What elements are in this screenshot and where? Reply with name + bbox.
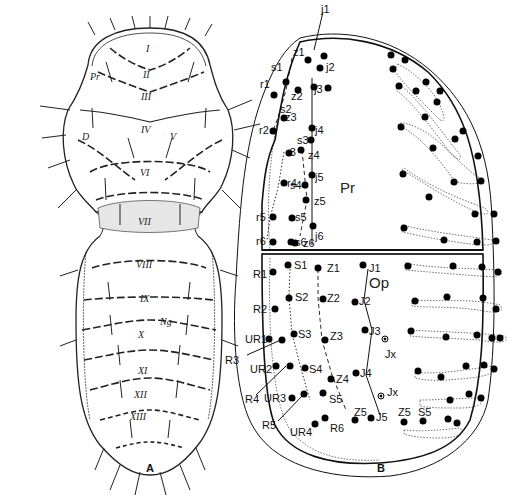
- seta-label-Z3: Z3: [330, 330, 343, 342]
- seta-label-r2: r2: [259, 124, 269, 136]
- seta-label-j5: j5: [314, 171, 324, 183]
- seta-label-R5: R5: [262, 419, 276, 431]
- panel-label-a: A: [146, 462, 154, 474]
- seta-label-z1: z1: [293, 46, 305, 58]
- seta-label-z4: z4: [308, 149, 320, 161]
- seta-label-Z5: Z5: [354, 406, 367, 418]
- seta-label-jx-2: Jx: [387, 386, 399, 398]
- seta-label-Z4: Z4: [336, 373, 349, 385]
- seta-label-r4: r4: [287, 177, 297, 189]
- segment-label-xi: XI: [137, 365, 148, 376]
- segment-label-xii: XII: [133, 389, 147, 400]
- seta-label-s5: s5: [295, 211, 307, 223]
- seta-label-jx-1: Jx: [385, 348, 397, 360]
- segment-label-ii: II: [142, 69, 150, 80]
- seta-label-S4: S4: [309, 363, 322, 375]
- figure-stage: I II III IV V VI VII VIII IX X XI XII XI…: [0, 0, 529, 497]
- seta-label-s6: s6: [295, 236, 307, 248]
- seta-label-j1: j1: [320, 3, 330, 15]
- panel-a-drawing: [40, 16, 260, 495]
- seta-label-r3: r3: [286, 146, 296, 158]
- seta-label-r6: r6: [256, 235, 266, 247]
- seta-label-s1: s1: [271, 61, 283, 73]
- seta-label-Z2: Z2: [327, 292, 340, 304]
- segment-label-viii: VIII: [136, 259, 153, 270]
- seta-label-R2: R2: [253, 303, 267, 315]
- seta-label-UR3: UR3: [264, 392, 286, 404]
- region-label-pr-b: Pr: [340, 179, 355, 196]
- seta-label-R1: R1: [253, 268, 267, 280]
- segment-label-iii: III: [140, 91, 152, 102]
- seta-label-S3: S3: [298, 328, 311, 340]
- region-label-op: Op: [369, 274, 389, 291]
- seta-label-z2: z2: [291, 90, 303, 102]
- seta-label-J4: J4: [360, 367, 372, 379]
- seta-label-UR1: UR1: [245, 333, 267, 345]
- seta-label-right-s5: S5: [418, 406, 431, 418]
- seta-label-J5: J5: [376, 411, 388, 423]
- seta-label-z5: z5: [314, 195, 326, 207]
- seta-label-R3: R3: [225, 354, 239, 366]
- segment-label-vi: VI: [140, 167, 150, 178]
- seta-label-J2: J2: [359, 295, 371, 307]
- seta-label-s2: s2: [280, 103, 292, 115]
- panel-label-b: B: [377, 462, 385, 474]
- seta-label-R4: R4: [245, 393, 259, 405]
- seta-label-Z1: Z1: [327, 262, 340, 274]
- seta-label-s3: s3: [297, 134, 309, 146]
- segment-label-v: V: [170, 131, 178, 142]
- seta-label-J3: J3: [369, 325, 381, 337]
- seta-label-UR4: UR4: [290, 426, 312, 438]
- seta-label-J1: J1: [369, 262, 381, 274]
- seta-label-right-z5: Z5: [398, 406, 411, 418]
- region-label-pr: Pr: [89, 71, 100, 82]
- region-label-d: D: [81, 131, 90, 142]
- region-label-ng: Ng: [159, 316, 172, 327]
- seta-label-j4: j4: [314, 124, 324, 136]
- segment-label-i: I: [145, 43, 150, 54]
- seta-label-S2: S2: [295, 291, 308, 303]
- seta-label-r1: r1: [260, 78, 270, 90]
- seta-label-UR2: UR2: [250, 363, 272, 375]
- segment-label-xiii: XIII: [129, 411, 147, 422]
- seta-label-j3: j3: [313, 83, 323, 95]
- segment-label-x: X: [137, 329, 145, 340]
- figure-svg: I II III IV V VI VII VIII IX X XI XII XI…: [0, 0, 529, 497]
- seta-label-S1: S1: [294, 259, 307, 271]
- segment-label-ix: IX: [139, 293, 150, 304]
- seta-label-r5: r5: [256, 211, 266, 223]
- seta-label-j2: j2: [325, 61, 335, 73]
- seta-label-j6: j6: [314, 230, 324, 242]
- seta-label-R6: R6: [330, 422, 344, 434]
- seta-label-S5: S5: [329, 393, 342, 405]
- segment-label-iv: IV: [140, 124, 152, 135]
- segment-label-vii: VII: [138, 216, 151, 227]
